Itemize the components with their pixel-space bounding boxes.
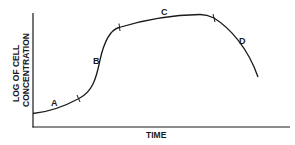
phase-label-d: D [239, 36, 246, 46]
growth-curve-diagram: A B C D TIME LOG OF CELL CONCENTRATION [0, 0, 295, 145]
y-axis-label-line1: LOG OF CELL [11, 45, 21, 102]
phase-label-c: C [161, 7, 168, 17]
phase-label-b: B [93, 56, 100, 66]
phase-label-a: A [51, 98, 58, 108]
growth-curve [33, 15, 258, 114]
x-axis-label: TIME [146, 130, 167, 140]
phase-tick-bc [119, 24, 120, 32]
y-axis-label-line2: CONCENTRATION [21, 33, 31, 107]
